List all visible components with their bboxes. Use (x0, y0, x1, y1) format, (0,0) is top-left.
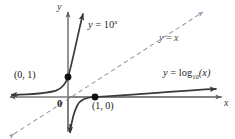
exponential-curve (12, 14, 83, 95)
identity-label-x: x (174, 32, 178, 43)
point-label-1-0: (1, 0) (92, 101, 114, 111)
logarithm-label-arg: (x) (199, 67, 211, 78)
logarithm-label-func: log (179, 67, 192, 78)
point-label-0-1: (0, 1) (14, 70, 36, 80)
point-0-1-marker (65, 74, 72, 81)
identity-line-label: y = x (159, 33, 179, 43)
exponential-label-exponent: x (114, 18, 117, 26)
exponential-label-equals: = (93, 19, 104, 30)
exponential-curve-group (11, 14, 83, 95)
origin-label: 0 (57, 99, 62, 110)
exponential-curve-label: y = 10x (88, 20, 117, 31)
exponential-label-base: 10 (104, 19, 115, 30)
logarithm-label-equals: = (168, 67, 179, 78)
logarithm-curve-label: y = log10(x) (163, 68, 210, 79)
identity-label-equals: = (163, 32, 174, 43)
x-axis-label: x (224, 98, 228, 108)
figure-container: y x 0 y = 10x y = x y = log10(x) (0, 1) … (0, 0, 235, 139)
y-axis-label: y (57, 2, 61, 12)
